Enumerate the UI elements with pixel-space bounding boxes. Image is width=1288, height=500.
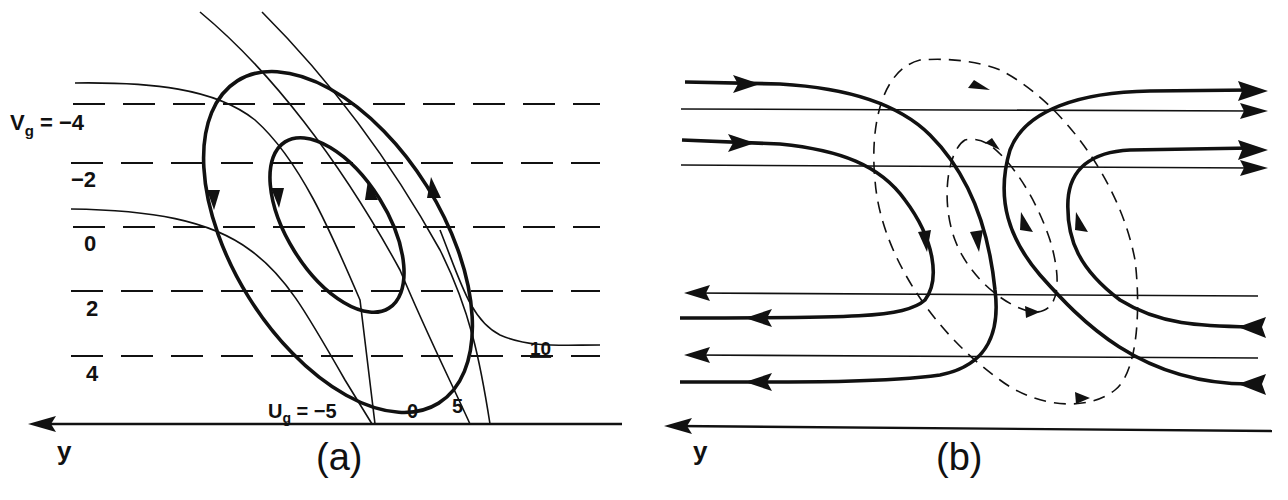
figure-canvas: Vg = −4 −2 0 2 4 Ug = −5 0 5 10 (0, 0, 1288, 500)
orbit-inner (243, 115, 432, 334)
caption-a: (a) (316, 436, 362, 478)
y-axis-b (676, 426, 1272, 431)
vg-tick-4: 4 (86, 361, 99, 386)
panel-a: Vg = −4 −2 0 2 4 Ug = −5 0 5 10 (10, 12, 622, 478)
panel-b: y (b) (664, 59, 1272, 478)
vg-dashed-lines (71, 104, 600, 356)
vg-tick-0: 0 (84, 231, 96, 256)
ug-tick-5: 5 (452, 395, 463, 417)
axis-label-y-a: y (57, 436, 72, 466)
thick-trajectories (680, 75, 1268, 395)
ug-contours (71, 12, 600, 424)
ug-label: Ug = −5 (268, 400, 337, 426)
ug-tick-10: 10 (530, 338, 551, 359)
vg-tick-2: 2 (86, 296, 98, 321)
caption-b: (b) (936, 436, 982, 478)
vg-label: Vg = −4 (10, 110, 85, 139)
axis-label-y-b: y (693, 436, 708, 466)
orbit-outer (148, 25, 527, 459)
vg-tick-minus2: −2 (71, 167, 96, 192)
